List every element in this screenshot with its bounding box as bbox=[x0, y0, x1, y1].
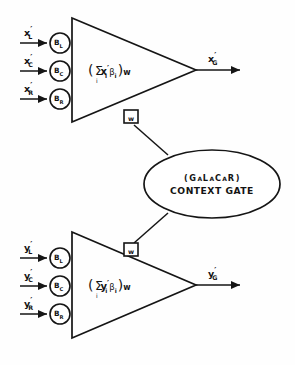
diagram-svg: x′L x′C x′R BL BC BR (Σix′iβi)w x′G bbox=[0, 0, 295, 365]
context-gate-ellipse[interactable] bbox=[144, 150, 280, 218]
gate-port-label-lower: w bbox=[128, 248, 134, 256]
gate-link-lower bbox=[134, 213, 168, 243]
formula-upper: (Σix′iβi)w bbox=[88, 62, 131, 84]
output-label-y-g: y′G bbox=[208, 267, 217, 281]
input-label-x-r: x′R bbox=[24, 82, 33, 96]
lower-unit-group bbox=[20, 213, 240, 338]
diagram-canvas: x′L x′C x′R BL BC BR (Σix′iβi)w x′G bbox=[0, 0, 295, 365]
upper-unit-group bbox=[20, 18, 240, 155]
output-label-x-g: x′G bbox=[208, 52, 217, 66]
input-label-y-c: y′C bbox=[24, 269, 33, 283]
gate-label: CONTEXT GATE bbox=[170, 185, 254, 196]
input-label-x-l: x′L bbox=[24, 26, 32, 40]
input-label-y-r: y′R bbox=[24, 297, 33, 311]
input-label-y-l: y′L bbox=[24, 241, 32, 255]
input-label-x-c: x′C bbox=[24, 54, 33, 68]
formula-lower: (Σiy′iβi)w bbox=[88, 277, 131, 299]
gate-acronym: (GALACAR) bbox=[184, 173, 240, 183]
gate-port-label-upper: w bbox=[128, 115, 134, 123]
gate-link-upper bbox=[134, 125, 168, 155]
